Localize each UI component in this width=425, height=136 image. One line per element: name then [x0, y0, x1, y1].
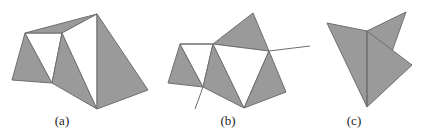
panel-a-triangulated-strip: [12, 14, 148, 109]
panel-b-triangle-fan-with-lines: [168, 13, 310, 109]
edge-line: [269, 46, 310, 51]
triangle-gray: [327, 23, 367, 107]
caption-c: (c): [339, 113, 369, 129]
triangle-gray: [97, 14, 148, 109]
edge-line: [195, 87, 203, 109]
caption-a: (a): [47, 113, 77, 129]
panel-c-overlapping-triangles: [327, 12, 412, 107]
caption-b: (b): [213, 113, 243, 129]
